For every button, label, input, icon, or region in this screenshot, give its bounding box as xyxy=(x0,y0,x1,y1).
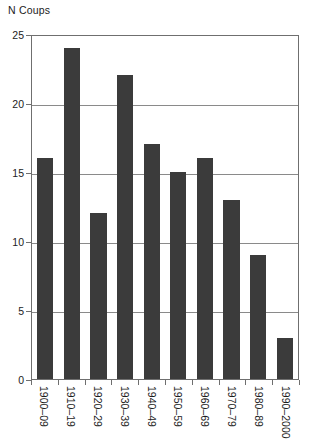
y-tick-label: 10 xyxy=(12,237,24,248)
x-label-slot: 1970–79 xyxy=(219,386,246,445)
x-tick-label: 1920–29 xyxy=(93,386,104,427)
bar-chart: N Coups 0510152025 1900–091910–191920–29… xyxy=(0,0,316,445)
bar-slot xyxy=(192,36,219,379)
bar[interactable] xyxy=(64,48,80,379)
bar-slot xyxy=(32,36,59,379)
x-tick-mark xyxy=(192,380,193,385)
plot-area xyxy=(31,35,299,380)
bar-slot xyxy=(271,36,298,379)
bar[interactable] xyxy=(37,158,53,379)
x-tick-mark xyxy=(165,380,166,385)
x-tick-label: 1930–39 xyxy=(120,386,131,427)
x-label-slot: 1990–2000 xyxy=(272,386,299,445)
x-axis: 1900–091910–191920–291930–391940–491950–… xyxy=(31,380,299,445)
chart-title: N Coups xyxy=(8,4,50,16)
x-label-slot: 1930–39 xyxy=(111,386,138,445)
bar[interactable] xyxy=(250,255,266,379)
bar-slot xyxy=(85,36,112,379)
x-tick-mark xyxy=(138,380,139,385)
x-tick-mark xyxy=(58,380,59,385)
bar[interactable] xyxy=(117,75,133,379)
x-tick-label: 1940–49 xyxy=(146,386,157,427)
x-label-slot: 1940–49 xyxy=(138,386,165,445)
bar[interactable] xyxy=(144,144,160,379)
x-label-slot: 1980–89 xyxy=(245,386,272,445)
y-tick-label: 0 xyxy=(18,375,24,386)
x-tick-label: 1990–2000 xyxy=(280,386,291,439)
x-tick-label: 1950–59 xyxy=(173,386,184,427)
x-tick-label: 1980–89 xyxy=(254,386,265,427)
x-tick-mark xyxy=(245,380,246,385)
x-label-slot: 1950–59 xyxy=(165,386,192,445)
x-tick-mark xyxy=(299,380,300,385)
x-tick-label: 1960–69 xyxy=(200,386,211,427)
x-label-slot: 1960–69 xyxy=(192,386,219,445)
x-label-slot: 1900–09 xyxy=(31,386,58,445)
x-tick-mark xyxy=(85,380,86,385)
x-tick-mark xyxy=(219,380,220,385)
x-tick-mark xyxy=(111,380,112,385)
bar[interactable] xyxy=(197,158,213,379)
bar[interactable] xyxy=(277,338,293,379)
x-label-slot: 1920–29 xyxy=(85,386,112,445)
bar-slot xyxy=(112,36,139,379)
x-tick-mark xyxy=(31,380,32,385)
bar[interactable] xyxy=(170,172,186,379)
bar-slot xyxy=(218,36,245,379)
bar[interactable] xyxy=(90,213,106,379)
bars-layer xyxy=(32,36,298,379)
x-tick-labels: 1900–091910–191920–291930–391940–491950–… xyxy=(31,386,299,445)
x-tick-label: 1910–19 xyxy=(66,386,77,427)
x-tick-marks xyxy=(31,380,299,385)
bar-slot xyxy=(59,36,86,379)
y-tick-label: 5 xyxy=(18,306,24,317)
y-tick-label: 25 xyxy=(12,30,24,41)
bar[interactable] xyxy=(223,200,239,379)
x-tick-label: 1970–79 xyxy=(227,386,238,427)
x-label-slot: 1910–19 xyxy=(58,386,85,445)
y-axis: 0510152025 xyxy=(0,35,31,380)
bar-slot xyxy=(245,36,272,379)
x-tick-label: 1900–09 xyxy=(39,386,50,427)
bar-slot xyxy=(138,36,165,379)
y-tick-label: 20 xyxy=(12,99,24,110)
y-tick-label: 15 xyxy=(12,168,24,179)
x-tick-mark xyxy=(272,380,273,385)
bar-slot xyxy=(165,36,192,379)
